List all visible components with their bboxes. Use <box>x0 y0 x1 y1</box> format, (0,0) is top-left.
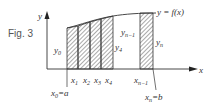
label-x2: x2 <box>82 75 90 86</box>
strip-last <box>140 13 153 69</box>
label-yn-1: yn−1 <box>120 27 135 38</box>
y-axis-label: y <box>37 11 42 21</box>
strip-2 <box>78 22 90 69</box>
curve-label: y = f(x) <box>156 7 184 17</box>
y-axis-arrow-icon <box>45 11 50 19</box>
strip-3 <box>90 19 101 69</box>
label-xn-b: xn=b <box>144 92 163 103</box>
label-x1: x1 <box>70 75 78 86</box>
label-yn: yn <box>155 37 163 48</box>
label-y0: y0 <box>53 45 61 56</box>
figure-caption: Fig. 3 <box>8 28 33 39</box>
strip-4 <box>101 16 113 69</box>
x-axis-label: x <box>198 65 203 75</box>
trapezoid-rule-diagram: Fig. 3 y x y = f(x) y0 y4 yn−1 yn x1 x2 <box>0 0 211 106</box>
x-axis-arrow-icon <box>189 67 198 72</box>
label-x3: x3 <box>93 75 101 86</box>
xn-leader-line <box>153 69 156 90</box>
label-y4: y4 <box>114 42 122 53</box>
hatched-strips <box>67 13 153 69</box>
label-xn-1: xn−1 <box>133 75 148 86</box>
y-axis <box>45 11 50 69</box>
label-x0-a: x0=a <box>50 88 69 99</box>
label-x4: x4 <box>104 75 112 86</box>
strip-1 <box>67 26 78 69</box>
